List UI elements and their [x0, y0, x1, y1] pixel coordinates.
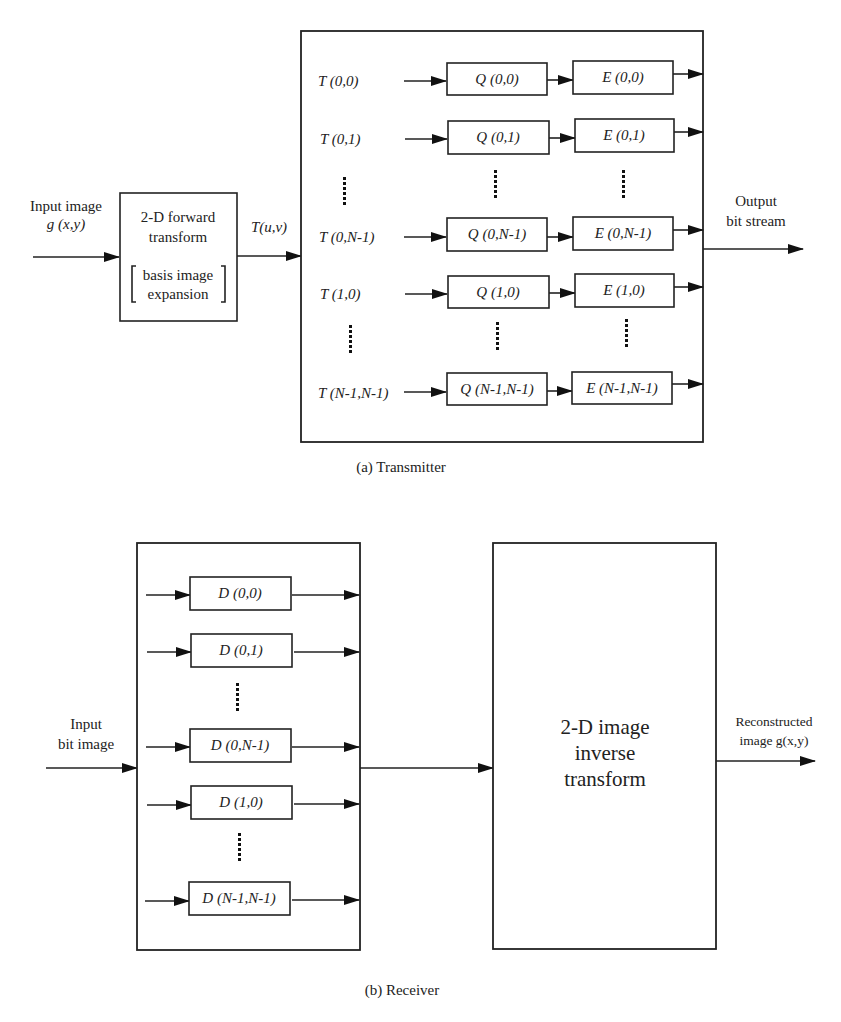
- quantizer-label: Q (0,N-1): [468, 226, 526, 243]
- transmitter-section: Input image g (x,y) 2-D forward transfor…: [30, 31, 803, 476]
- quantizer-label: Q (0,0): [475, 71, 518, 88]
- encoder-label: E (0,1): [602, 127, 645, 144]
- decoder-label: D (0,N-1): [210, 737, 269, 754]
- decoder-label: D (0,1): [218, 642, 262, 659]
- output-label-line2: bit stream: [726, 213, 786, 229]
- decoder-label: D (0,0): [217, 585, 261, 602]
- encoder-label: E (0,0): [601, 69, 644, 86]
- inverse-transform-line2: inverse: [575, 741, 636, 765]
- input-image-label: Input image: [30, 198, 102, 214]
- basis-expansion-line2: expansion: [148, 286, 209, 302]
- receiver-caption: (b) Receiver: [365, 982, 440, 999]
- basis-expansion-line1: basis image: [143, 267, 214, 283]
- coefficient-label: T (0,N-1): [319, 229, 375, 246]
- encoder-label: E (N-1,N-1): [585, 380, 658, 397]
- coefficient-label: T (1,0): [320, 286, 361, 303]
- inverse-transform-line3: transform: [564, 767, 646, 791]
- encoder-label: E (0,N-1): [594, 225, 652, 242]
- output-label: Output: [735, 193, 778, 209]
- reconstructed-image-label-line2: image g(x,y): [740, 733, 809, 748]
- coefficient-label: T (0,1): [320, 131, 361, 148]
- forward-transform-block: 2-D forward transform basis image expans…: [120, 193, 237, 321]
- input-bit-image-label: Input: [70, 716, 102, 732]
- forward-transform-line1: 2-D forward: [141, 209, 216, 225]
- receiver-section: Input bit image D (0,0) D (0,1) D (0,N-1…: [46, 543, 815, 999]
- inverse-transform-block: 2-D image inverse transform: [493, 543, 716, 949]
- forward-transform-line2: transform: [149, 229, 208, 245]
- encoder-label: E (1,0): [602, 282, 645, 299]
- transform-output-label: T(u,v): [251, 219, 287, 236]
- quantizer-label: Q (N-1,N-1): [460, 381, 533, 398]
- transmitter-caption: (a) Transmitter: [356, 459, 446, 476]
- reconstructed-image-label: Reconstructed: [735, 714, 812, 729]
- quantizer-label: Q (1,0): [476, 284, 519, 301]
- input-bit-image-label-line2: bit image: [58, 736, 115, 752]
- decoder-label: D (N-1,N-1): [201, 890, 275, 907]
- coefficient-label: T (0,0): [318, 73, 359, 90]
- coefficient-label: T (N-1,N-1): [318, 385, 389, 402]
- quantizer-label: Q (0,1): [476, 129, 519, 146]
- inverse-transform-line1: 2-D image: [560, 715, 649, 739]
- input-image-symbol: g (x,y): [47, 216, 85, 233]
- transform-coding-diagram: Input image g (x,y) 2-D forward transfor…: [0, 0, 841, 1022]
- decoder-label: D (1,0): [218, 794, 262, 811]
